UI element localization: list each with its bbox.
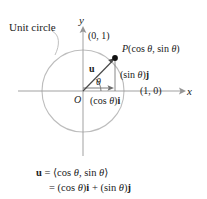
point-0-1-label: (0, 1) [88, 31, 110, 41]
equation-plus: + [89, 182, 100, 193]
unit-circle-leader-line [52, 31, 58, 55]
equation-block: u = ⟨cos θ, sin θ⟩ = (cos θ)i + (sin θ)j [36, 165, 131, 195]
equation-equals-2: = [49, 182, 58, 193]
equation-equals-1: = [42, 167, 53, 178]
equation-line-1: u = ⟨cos θ, sin θ⟩ [36, 165, 131, 180]
equation-rhs-comma: , sin [79, 167, 99, 178]
cos-comp-open: (cos [90, 95, 109, 106]
cos-component-label: (cos θ)i [90, 96, 120, 106]
equation-term2-open: (sin [100, 182, 118, 193]
sin-comp-unit-vector-j: j [146, 69, 149, 80]
theta-angle-label: θ [96, 77, 101, 87]
sin-comp-open: (sin [120, 69, 138, 80]
x-axis-label: x [187, 86, 192, 97]
equation-rhs-open: ⟨cos [53, 167, 74, 178]
equation-line-2: = (cos θ)i + (sin θ)j [36, 180, 131, 195]
equation-rhs-close: ⟩ [104, 167, 108, 178]
point-p-cos-text: cos [131, 43, 147, 54]
point-p-sin-text: sin [157, 43, 171, 54]
point-p-label: P(cos θ, sin θ) [122, 44, 180, 54]
origin-label: O [74, 95, 81, 105]
point-p-marker [112, 55, 118, 61]
point-1-0-label: (1, 0) [140, 86, 162, 96]
y-axis-label: y [79, 15, 84, 26]
cos-comp-unit-vector-i: i [117, 95, 120, 106]
unit-circle-figure: Unit circle y x (0, 1) (1, 0) O P(cos θ,… [0, 0, 207, 199]
vector-u-label: u [89, 64, 95, 74]
equation-term2-unit-vector-j: j [127, 182, 131, 193]
point-p-close-paren: ) [176, 43, 179, 54]
sin-component-label: (sin θ)j [120, 70, 149, 80]
equation-term1-open: (cos [58, 182, 78, 193]
unit-circle-label: Unit circle [9, 22, 56, 33]
